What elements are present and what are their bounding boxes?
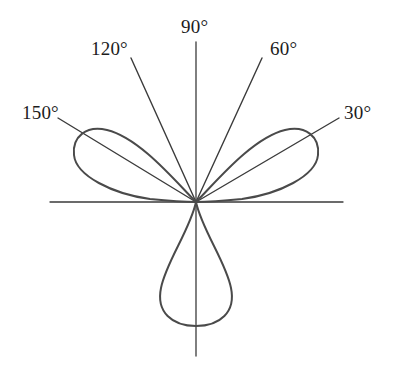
polar-plot-figure: 150° 120° 90° 60° 30° [0,0,393,381]
angle-label-60: 60° [270,38,297,59]
polar-plot-svg: 150° 120° 90° 60° 30° [0,0,393,381]
leader-line-60 [196,58,262,202]
leader-line-150 [58,118,196,202]
angle-label-120: 120° [91,38,128,59]
angle-label-90: 90° [181,16,208,37]
leader-line-120 [131,58,196,202]
angle-label-150: 150° [22,102,59,123]
angle-label-30: 30° [344,102,371,123]
